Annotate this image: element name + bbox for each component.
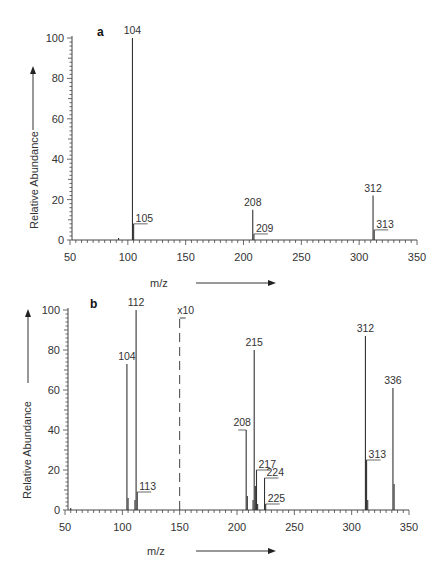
arrow-up-icon <box>25 309 31 317</box>
y-tick-label: 100 <box>42 304 60 316</box>
arrow-up-icon <box>30 66 36 74</box>
panel-label: a <box>97 25 104 39</box>
y-axis-title: Relative Abundance <box>21 401 33 499</box>
peak-label: 104 <box>124 24 142 36</box>
x-tick-label: 50 <box>59 521 71 533</box>
x-tick-label: 150 <box>170 521 188 533</box>
x-tick-label: 300 <box>342 521 360 533</box>
y-tick-label: 60 <box>48 384 60 396</box>
spectrum-panel-b: 0204060801005010015020025030035010411211… <box>21 296 418 557</box>
y-tick-label: 60 <box>52 113 64 125</box>
spectrum-panel-a: 0204060801005010015020025030035010410520… <box>28 24 426 289</box>
peak-label: 224 <box>267 466 285 478</box>
x-tick-label: 150 <box>176 251 194 263</box>
x-tick-label: 100 <box>113 521 131 533</box>
x-tick-label: 200 <box>228 521 246 533</box>
y-tick-label: 80 <box>52 72 64 84</box>
magnification-label: x10 <box>177 304 194 316</box>
y-tick-label: 0 <box>58 234 64 246</box>
peak-label: 313 <box>369 448 387 460</box>
x-tick-label: 350 <box>400 521 418 533</box>
arrow-right-icon <box>268 548 276 554</box>
x-tick-label: 300 <box>350 251 368 263</box>
peak-label: 225 <box>268 492 286 504</box>
y-tick-label: 0 <box>54 504 60 516</box>
x-tick-label: 200 <box>234 251 252 263</box>
x-axis-title: m/z <box>150 277 168 289</box>
peak-label: 208 <box>233 416 251 428</box>
peak-label: 312 <box>364 182 382 194</box>
y-tick-label: 100 <box>46 32 64 44</box>
peak-label: 113 <box>139 480 156 492</box>
peak-label: 209 <box>256 222 274 234</box>
x-tick-label: 250 <box>292 251 310 263</box>
peak-label: 208 <box>244 196 262 208</box>
y-tick-label: 20 <box>52 194 64 206</box>
peak-label: 215 <box>245 336 263 348</box>
peak-label: 112 <box>128 296 145 308</box>
x-tick-label: 250 <box>285 521 303 533</box>
x-axis-title: m/z <box>147 545 165 557</box>
x-tick-label: 350 <box>408 251 426 263</box>
peak-label: 104 <box>118 350 136 362</box>
peak-label: 313 <box>376 218 394 230</box>
x-tick-label: 50 <box>64 251 76 263</box>
y-tick-label: 40 <box>48 424 60 436</box>
arrow-right-icon <box>268 280 276 286</box>
mass-spectra-figure: 0204060801005010015020025030035010410520… <box>0 0 439 574</box>
peak-label: 336 <box>384 374 402 386</box>
panel-label: b <box>90 297 97 311</box>
peak-label: 312 <box>357 322 375 334</box>
y-tick-label: 40 <box>52 153 64 165</box>
y-tick-label: 80 <box>48 344 60 356</box>
x-tick-label: 100 <box>119 251 137 263</box>
peak-label: 105 <box>136 212 154 224</box>
y-tick-label: 20 <box>48 464 60 476</box>
y-axis-title: Relative Abundance <box>28 131 40 229</box>
